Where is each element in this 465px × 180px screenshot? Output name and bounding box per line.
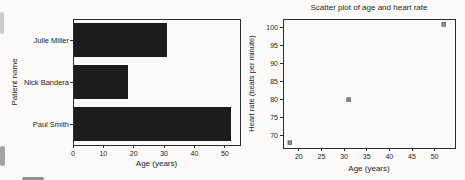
- x-tick-label: 25: [318, 153, 326, 160]
- bar: [73, 23, 167, 57]
- x-tick-label: 0: [71, 150, 75, 157]
- bar: [73, 65, 128, 99]
- scatter-point: [347, 98, 351, 102]
- x-axis-label: Age (years): [136, 159, 178, 168]
- bar-category-label: Julie Miller: [34, 36, 70, 45]
- x-tick-label: 40: [191, 150, 199, 157]
- y-axis-label: Heart rate (beats per minute): [247, 35, 256, 132]
- x-tick-label: 30: [160, 150, 168, 157]
- y-axis-label: Patient name: [10, 58, 19, 106]
- x-tick-label: 30: [340, 153, 348, 160]
- chart-title: Scatter plot of age and heart rate: [311, 3, 429, 12]
- y-tick-label: 85: [270, 78, 278, 85]
- axis-frame: [283, 19, 455, 148]
- x-tick-label: 35: [363, 153, 371, 160]
- x-tick-label: 10: [99, 150, 107, 157]
- charts-svg: Julie MillerNick BanderaPaul Smith010203…: [0, 0, 465, 180]
- scatter-chart-age-vs-heart-rate: 20253035404550707580859095100Scatter plo…: [247, 3, 455, 173]
- y-tick-label: 80: [270, 96, 278, 103]
- bar-chart-age-by-patient: Julie MillerNick BanderaPaul Smith010203…: [10, 19, 240, 168]
- x-tick-label: 50: [221, 150, 229, 157]
- y-tick-label: 90: [270, 60, 278, 67]
- x-tick-label: 45: [408, 153, 416, 160]
- y-tick-label: 70: [270, 132, 278, 139]
- bar-category-label: Nick Bandera: [24, 78, 70, 87]
- bar-category-label: Paul Smith: [33, 120, 69, 129]
- y-tick-label: 75: [270, 114, 278, 121]
- x-tick-label: 50: [431, 153, 439, 160]
- y-tick-label: 95: [270, 42, 278, 49]
- x-tick-label: 20: [295, 153, 303, 160]
- y-tick-label: 100: [266, 24, 278, 31]
- figure-canvas: Julie MillerNick BanderaPaul Smith010203…: [0, 0, 465, 180]
- scatter-point: [288, 141, 292, 145]
- x-tick-label: 20: [130, 150, 138, 157]
- scatter-point: [442, 23, 446, 27]
- x-tick-label: 40: [385, 153, 393, 160]
- x-axis-label: Age (years): [348, 164, 390, 173]
- bar: [73, 107, 231, 141]
